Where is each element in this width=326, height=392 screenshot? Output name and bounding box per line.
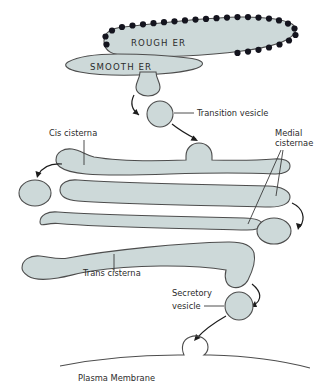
secretory-vesicle-label-line2: vesicle bbox=[172, 301, 201, 311]
arrow-secretory-vesicle-to-membrane bbox=[194, 316, 226, 341]
cis-cisterna-group: Cis cisterna bbox=[49, 128, 290, 175]
trans-cisterna-label: Trans cisterna bbox=[82, 268, 141, 278]
medial-cisternae-label-group: Medial cisternae bbox=[248, 128, 313, 224]
plasma-membrane-group: Plasma Membrane bbox=[60, 336, 310, 383]
vesicle-left-upper bbox=[19, 180, 51, 206]
medial-cisterna-upper-shape bbox=[60, 180, 290, 207]
arrow-transition-vesicle-to-cis bbox=[172, 124, 198, 141]
trans-cisterna-group: Trans cisterna bbox=[22, 242, 255, 288]
smooth-er-label: SMOOTH ER bbox=[90, 62, 152, 72]
transition-vesicle-shape bbox=[147, 101, 173, 127]
medial-cisternae-label-line1: Medial bbox=[275, 128, 302, 138]
plasma-membrane-shape bbox=[60, 336, 310, 368]
medial-cisternae-label-line2: cisternae bbox=[275, 138, 313, 148]
plasma-membrane-label: Plasma Membrane bbox=[78, 373, 155, 383]
vesicle-right-lower bbox=[257, 218, 291, 244]
arrow-medial-to-right-vesicle bbox=[292, 203, 303, 230]
medial-cisterna-lower-shape bbox=[40, 212, 262, 230]
smooth-er-group: SMOOTH ER bbox=[66, 54, 203, 96]
secretory-vesicle-label-line1: Secretory bbox=[172, 288, 212, 298]
smooth-er-bulb bbox=[136, 72, 160, 96]
rough-er-label: ROUGH ER bbox=[131, 38, 186, 48]
secretory-vesicle-shape bbox=[225, 292, 253, 320]
secretory-pathway-diagram: ROUGH ER SMOOTH ER Transition vesicle Ci… bbox=[0, 0, 326, 392]
transition-vesicle-label: Transition vesicle bbox=[196, 108, 268, 118]
cis-cisterna-shape bbox=[56, 143, 290, 175]
rough-er-group: ROUGH ER bbox=[102, 14, 298, 56]
cis-cisterna-label: Cis cisterna bbox=[49, 128, 97, 138]
secretory-vesicle-group: Secretory vesicle bbox=[172, 288, 253, 320]
transition-vesicle-group: Transition vesicle bbox=[147, 101, 268, 127]
arrow-er-to-transition-vesicle bbox=[132, 95, 139, 115]
trans-cisterna-shape bbox=[22, 242, 255, 288]
